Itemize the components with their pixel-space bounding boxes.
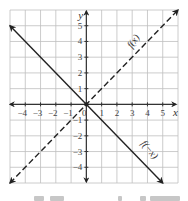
y-tick-label: −2 (73, 131, 83, 141)
y-tick-label: −4 (73, 162, 83, 172)
x-tick-label: −1 (63, 108, 73, 118)
y-tick-label: −3 (73, 147, 83, 157)
x-tick-label: 3 (130, 108, 135, 118)
y-tick-label: 1 (78, 84, 83, 94)
y-tick-label: 3 (78, 52, 83, 62)
x-tick-label: 4 (145, 108, 150, 118)
caption-cutoff (0, 194, 188, 201)
y-tick-label: 2 (78, 68, 83, 78)
x-tick-label: 1 (99, 108, 104, 118)
x-axis-label: x (172, 106, 178, 118)
x-tick-label: 5 (160, 108, 165, 118)
x-tick-label: −4 (17, 108, 27, 118)
y-tick-label: 5 (78, 21, 83, 31)
x-tick-label: 0 (82, 108, 87, 118)
x-tick-label: 2 (115, 108, 120, 118)
y-axis-label: y (77, 9, 83, 21)
function-graph: xy −4−3−2−1012345−4−3−2−112345 f(x)f(−x) (0, 0, 188, 201)
x-tick-label: −2 (48, 108, 58, 118)
x-tick-label: −3 (33, 108, 43, 118)
label-f-neg-x: f(−x) (138, 138, 161, 162)
label-f-x: f(x) (125, 32, 143, 51)
origin-point (84, 102, 88, 106)
y-tick-label: 4 (78, 36, 83, 46)
line-labels: f(x)f(−x) (125, 32, 161, 162)
